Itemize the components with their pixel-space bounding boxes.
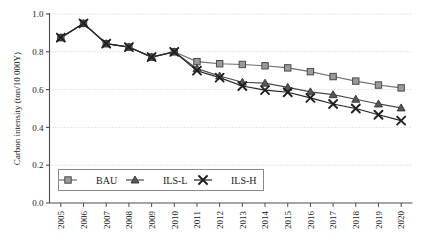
x-axis-tick-label: 2019 [374, 211, 384, 230]
y-axis-tick-label: 0.6 [32, 85, 44, 95]
chart-legend: BAUILS-LILS-H [59, 170, 264, 191]
x-axis-tick-label: 2011 [192, 211, 202, 229]
data-point-bau-2015 [285, 65, 291, 71]
data-point-bau-2013 [239, 61, 245, 67]
y-axis-tick-label: 0.2 [32, 160, 43, 170]
data-point-bau-2012 [216, 61, 222, 67]
y-axis-tick-label: 0.4 [32, 123, 44, 133]
y-axis-tick-label: 1.0 [32, 9, 44, 19]
data-point-ils-h-2019 [374, 111, 382, 119]
carbon-intensity-line-chart: Carbon intensity (ton/10 000Y) 0.00.20.4… [0, 0, 423, 247]
x-axis-tick-label: 2008 [124, 211, 134, 230]
x-axis-tick-label: 2017 [328, 211, 338, 230]
x-axis-tick-label: 2005 [56, 211, 66, 230]
x-axis-tick-label: 2007 [102, 211, 112, 230]
x-axis-tick-label: 2015 [283, 211, 293, 230]
x-axis-tick-label: 2013 [238, 211, 248, 230]
legend-label-ils-h: ILS-H [231, 175, 257, 186]
data-point-bau-2018 [353, 78, 359, 84]
series-line-ils-l [61, 23, 401, 107]
y-axis-title: Carbon intensity (ton/10 000Y) [12, 52, 22, 165]
y-axis-tick-label: 0.0 [32, 198, 44, 208]
series-layer [57, 19, 405, 124]
series-line-bau [61, 23, 401, 87]
legend-label-ils-l: ILS-L [163, 175, 187, 186]
x-axis-tick-label: 2016 [306, 211, 316, 230]
x-axis-tick-label: 2010 [170, 211, 180, 230]
data-point-bau-2017 [330, 73, 336, 79]
grid-lines [50, 14, 413, 165]
legend-label-bau: BAU [96, 175, 118, 186]
x-axis-tick-label: 2014 [260, 211, 270, 230]
x-axis-tick-label: 2020 [396, 211, 406, 230]
series-line-ils-h [61, 23, 401, 120]
chart-canvas: 0.00.20.40.60.81.0 200520062007200820092… [0, 0, 423, 247]
data-point-bau-2020 [398, 85, 404, 91]
x-axis-tick-label: 2009 [147, 211, 157, 230]
data-point-bau-2016 [307, 68, 313, 74]
y-axis-tick-label: 0.8 [32, 47, 44, 57]
x-axis-tick-label: 2012 [215, 211, 225, 229]
x-axis: 2005200620072008200920102011201220132014… [50, 203, 413, 229]
x-axis-tick-label: 2006 [79, 211, 89, 230]
data-point-bau-2014 [262, 63, 268, 69]
legend-marker-bau [65, 177, 71, 183]
data-point-bau-2019 [375, 82, 381, 88]
y-axis: 0.00.20.40.60.81.0 [32, 9, 49, 208]
data-point-ils-h-2020 [397, 117, 405, 125]
x-axis-tick-label: 2018 [351, 211, 361, 230]
